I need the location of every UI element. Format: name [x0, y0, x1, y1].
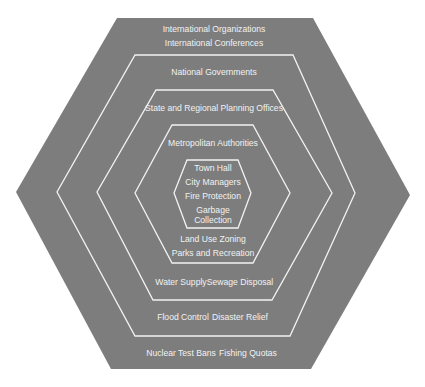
- label-state-regional-planning: State and Regional Planning Offices: [145, 103, 283, 113]
- label-sewage-disposal: Sewage Disposal: [207, 277, 273, 287]
- nested-hexagon-diagram: International Organizations Internationa…: [0, 0, 425, 387]
- label-water-supply: Water Supply: [155, 277, 207, 287]
- label-garbage: Garbage: [196, 205, 230, 215]
- label-nuclear-test-bans: Nuclear Test Bans: [146, 348, 216, 358]
- label-international-conferences: International Conferences: [165, 38, 263, 48]
- label-town-hall: Town Hall: [194, 163, 231, 173]
- label-fishing-quotas: Fishing Quotas: [219, 348, 277, 358]
- label-international-organizations: International Organizations: [163, 24, 266, 34]
- label-fire-protection: Fire Protection: [185, 191, 241, 201]
- label-collection: Collection: [194, 215, 232, 225]
- label-land-use-zoning: Land Use Zoning: [180, 234, 246, 244]
- label-metropolitan-authorities: Metropolitan Authorities: [168, 138, 258, 148]
- label-parks-recreation: Parks and Recreation: [172, 248, 255, 258]
- label-disaster-relief: Disaster Relief: [212, 312, 268, 322]
- label-city-managers: City Managers: [185, 177, 240, 187]
- label-flood-control: Flood Control: [157, 312, 209, 322]
- label-national-governments: National Governments: [171, 67, 257, 77]
